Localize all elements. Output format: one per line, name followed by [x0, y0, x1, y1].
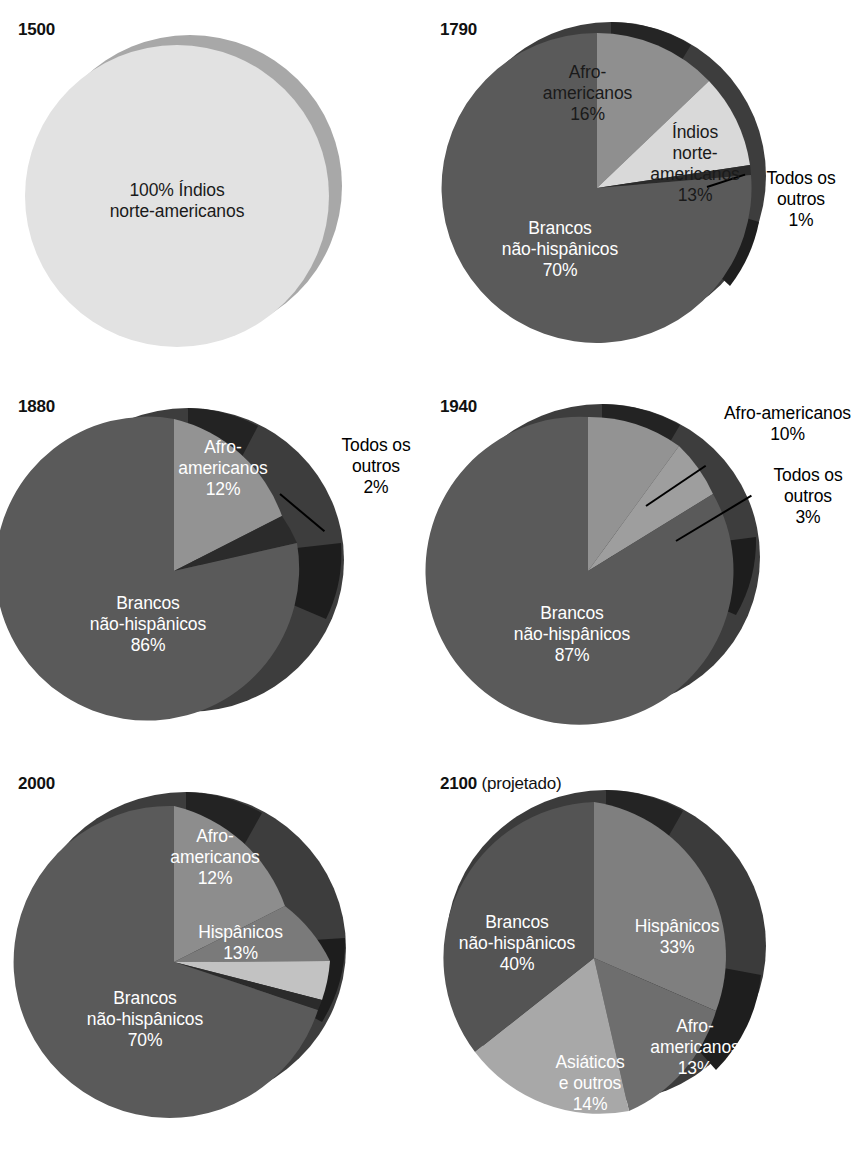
- slice-label-indios-1500: 100% Índios norte-americanos: [47, 180, 307, 222]
- slice-label-brancos-1880: Brancos não-hispânicos 86%: [48, 593, 248, 656]
- slice-label-afro-2000: Afro- americanos 12%: [140, 826, 290, 889]
- panel-1500: 1500 100% Índios norte-americanos: [0, 0, 430, 375]
- slice-label-brancos-2000: Brancos não-hispânicos 70%: [45, 988, 245, 1051]
- slice-label-brancos-2100: Brancos não-hispânicos 40%: [422, 912, 612, 975]
- slice-label-outros-1940: Todos os outros 3%: [752, 465, 861, 528]
- slice-label-outros-1880: Todos os outros 2%: [320, 435, 432, 498]
- slice-label-hispanicos-2100: Hispânicos 33%: [602, 916, 752, 958]
- pie-1880-svg: [0, 375, 430, 750]
- panel-2000: 2000: [0, 750, 430, 1167]
- pie-chart-figure: { "figure": { "title_visible": false, "b…: [0, 0, 861, 1167]
- slice-label-asiaticos-2100: Asiáticos e outros 14%: [520, 1052, 660, 1115]
- slice-label-outros-1790: Todos os outros 1%: [745, 168, 857, 231]
- panel-2100: 2100 (projetado) Brancos não-hispâ: [430, 750, 861, 1167]
- slice-label-brancos-1940: Brancos não-hispânicos 87%: [472, 603, 672, 666]
- panel-1880: 1880 Afro- americanos 12% Brancos não-hi…: [0, 375, 430, 750]
- slice-label-afro-1940: Afro-americanos 10%: [700, 403, 861, 445]
- slice-label-hispanicos-2000: Hispânicos 13%: [158, 922, 323, 964]
- pie-1940-slices: [425, 417, 733, 725]
- pie-1880: [0, 375, 430, 750]
- slice-label-afro-1880: Afro- americanos 12%: [148, 437, 298, 500]
- slice-label-brancos-1790: Brancos não-hispânicos 70%: [465, 218, 655, 281]
- panel-1790: 1790: [430, 0, 861, 375]
- panel-1940: 1940 Afro-americanos 10% Todos os outros…: [430, 375, 861, 750]
- slice-label-afro-1790: Afro- americanos 16%: [510, 62, 665, 125]
